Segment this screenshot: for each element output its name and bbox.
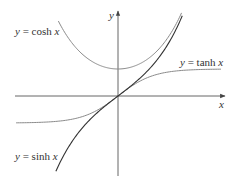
x-axis-label: x [218,98,224,110]
tanh-label: y = tanh x [179,56,223,68]
cosh-curve [58,13,181,69]
hyperbolic-functions-chart: x y y = cosh x y = tanh x y = sinh x [0,0,232,184]
sinh-curve [56,16,182,172]
y-axis-label: y [108,9,114,21]
sinh-label: y = sinh x [14,150,58,162]
cosh-label: y = cosh x [14,25,60,37]
